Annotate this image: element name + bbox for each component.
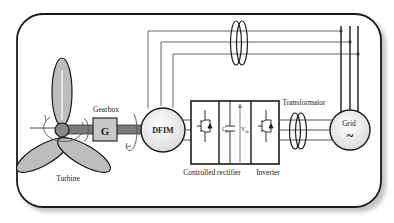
ac-source-icon: ~: [347, 128, 354, 143]
grid-label: Grid: [342, 119, 356, 128]
rectifier-label: Controlled rectifier: [183, 168, 241, 177]
turbine-label: Turbine: [56, 174, 80, 183]
dfim-label: DFIM: [152, 126, 174, 135]
gearbox-label: Gearbox: [93, 105, 119, 114]
dfim-diagram: G Gearbox DFIM Cb Vdc: [0, 0, 394, 223]
transformer-label: Transformator: [282, 98, 326, 107]
inverter-label: Inverter: [256, 168, 280, 177]
turbine-hub: [55, 123, 69, 137]
gearbox-symbol: G: [101, 125, 110, 137]
